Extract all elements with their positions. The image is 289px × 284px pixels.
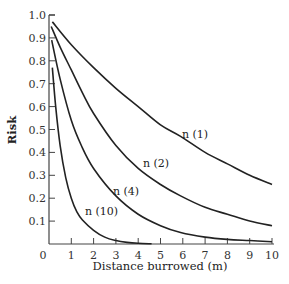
- y-tick-label: 0.3: [29, 169, 47, 182]
- y-tick-label: 0.2: [29, 192, 47, 205]
- y-tick-label: 0.4: [29, 146, 47, 159]
- y-tick-label: 0.7: [29, 78, 47, 91]
- x-tick-label: 0: [40, 249, 47, 262]
- y-tick-label: 0.6: [29, 101, 47, 114]
- curve-label: n (2): [143, 157, 169, 170]
- x-axis-title: Distance burrowed (m): [93, 259, 228, 273]
- curve-label: n (10): [85, 205, 118, 218]
- curve-label: n (1): [182, 128, 208, 141]
- x-tick-label: 9: [246, 249, 253, 262]
- axes: 0123456789100.10.20.30.40.50.60.70.80.91…: [29, 9, 280, 262]
- y-axis-title: Risk: [5, 115, 19, 144]
- y-tick-label: 0.9: [29, 32, 47, 45]
- y-tick-label: 0.5: [29, 124, 47, 137]
- y-tick-label: 1.0: [29, 9, 47, 22]
- curve-label: n (4): [113, 185, 139, 198]
- x-tick-label: 1: [68, 249, 75, 262]
- y-tick-label: 0.8: [29, 55, 47, 68]
- x-tick-label: 10: [265, 249, 279, 262]
- y-tick-label: 0.1: [29, 215, 47, 228]
- risk-distance-chart: 0123456789100.10.20.30.40.50.60.70.80.91…: [0, 0, 289, 284]
